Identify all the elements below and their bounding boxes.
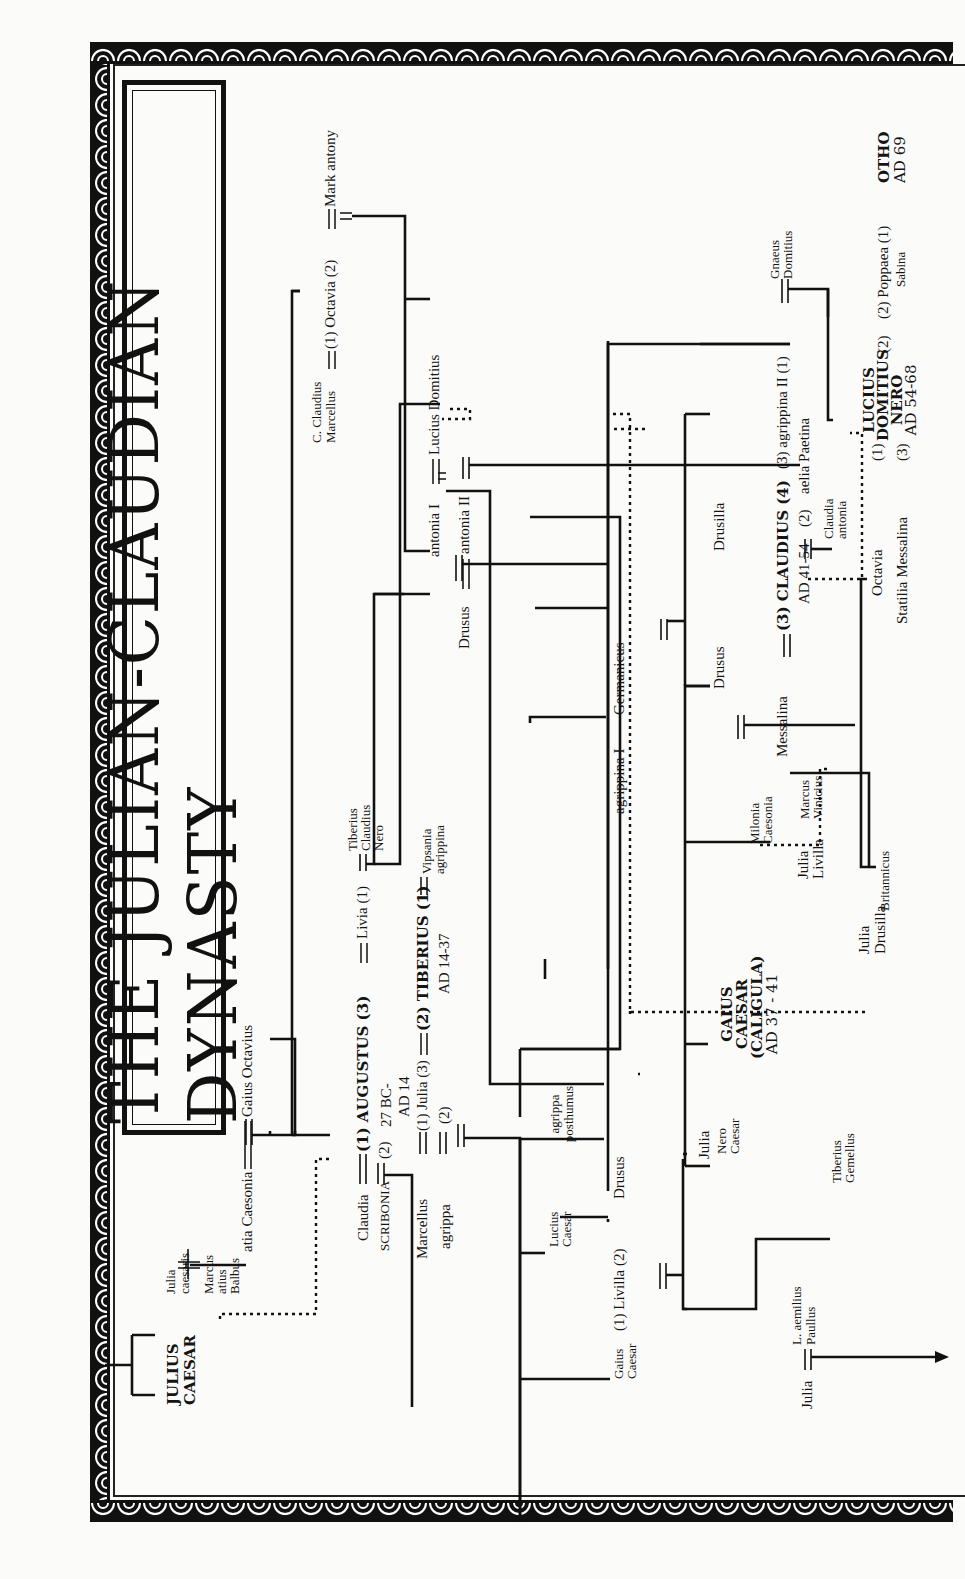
rotated-diagram-canvas: THE JULIAN-CLAUDIAN DYNASTY (0, 0, 953, 1579)
marriage-signs (0, 0, 953, 1579)
